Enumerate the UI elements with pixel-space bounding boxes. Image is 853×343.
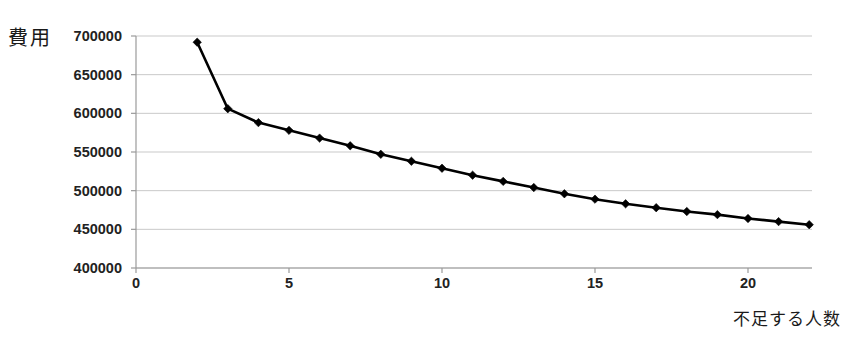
y-axis-tick-mark-group [131,36,136,268]
data-point-marker [713,210,721,218]
cost-vs-shortage-line-chart: 費用 4000004500005000005500006000006500007… [0,0,853,343]
data-point-marker [774,217,782,225]
data-point-marker [377,150,385,158]
x-axis-tick-mark-group [136,268,748,273]
data-point-marker [468,171,476,179]
data-point-marker [499,177,507,185]
plot-area [0,0,853,343]
data-point-marker [407,157,415,165]
data-point-marker [621,200,629,208]
data-point-marker [315,134,323,142]
gridline-group [136,36,812,268]
data-point-marker [346,142,354,150]
data-point-marker [652,203,660,211]
data-point-marker [193,38,201,46]
data-point-marker [224,104,232,112]
data-point-marker [438,164,446,172]
data-point-marker [254,118,262,126]
data-series-group [193,38,813,229]
data-point-marker [285,126,293,134]
data-point-marker [805,220,813,228]
data-point-marker [591,195,599,203]
data-point-marker [744,214,752,222]
x-axis-title: 不足する人数 [733,305,841,330]
data-point-marker [683,207,691,215]
